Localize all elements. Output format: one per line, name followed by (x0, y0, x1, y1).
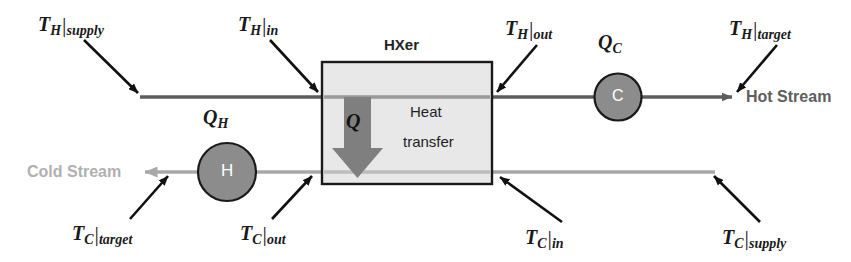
label-tc-in: TC|in (525, 225, 564, 252)
th-supply-qualifier: supply (67, 23, 104, 38)
tc-target-qualifier: target (99, 232, 132, 247)
tc-in-stream: C (537, 236, 546, 251)
pointer-tc-supply (714, 176, 760, 222)
tc-supply-symbol: T (722, 226, 734, 248)
pointer-th-out (497, 45, 537, 92)
th-out-stream: H (517, 27, 528, 42)
th-out-qualifier: out (534, 27, 553, 42)
tc-in-qualifier: in (552, 236, 564, 251)
pointer-tc-in (500, 177, 562, 222)
cooler-letter-label: C (612, 87, 624, 105)
label-th-target: TH|target (729, 16, 791, 43)
label-th-out: TH|out (505, 16, 552, 43)
qc-symbol: Q (598, 31, 612, 53)
th-in-qualifier: in (267, 23, 279, 38)
heat-exchanger-diagram: HXer Heat transfer Q C H QH QC TH|supply… (0, 0, 851, 262)
tc-out-qualifier: out (267, 232, 286, 247)
pointer-th-in (270, 40, 318, 92)
th-supply-stream: H (50, 23, 61, 38)
th-supply-symbol: T (38, 13, 50, 35)
tc-supply-qualifier: supply (749, 236, 786, 251)
pointer-tc-target (130, 176, 168, 219)
label-tc-supply: TC|supply (722, 225, 786, 252)
th-out-symbol: T (505, 17, 517, 39)
label-tc-out: TC|out (240, 221, 286, 248)
pointer-th-target (737, 45, 777, 92)
pointer-th-supply (84, 40, 138, 93)
th-in-stream: H (250, 23, 261, 38)
th-target-qualifier: target (758, 27, 791, 42)
th-target-stream: H (741, 27, 752, 42)
tc-target-symbol: T (72, 222, 84, 244)
label-th-in: TH|in (238, 12, 278, 39)
pointer-tc-out (272, 176, 312, 219)
tc-supply-stream: C (734, 236, 743, 251)
cold-stream-label: Cold Stream (27, 163, 121, 181)
qh-subscript: H (217, 116, 228, 131)
heater-letter-label: H (221, 161, 233, 181)
tc-out-symbol: T (240, 222, 252, 244)
qc-duty-label: QC (598, 31, 622, 57)
qh-symbol: Q (203, 106, 217, 128)
tc-target-stream: C (84, 232, 93, 247)
heat-transfer-text-line1: Heat (410, 103, 442, 120)
qh-duty-label: QH (203, 106, 228, 132)
hxer-title-label: HXer (384, 36, 419, 53)
th-in-symbol: T (238, 13, 250, 35)
label-tc-target: TC|target (72, 221, 132, 248)
q-heat-duty-label: Q (346, 110, 360, 133)
hot-stream-label: Hot Stream (746, 88, 831, 106)
label-th-supply: TH|supply (38, 12, 104, 39)
qc-subscript: C (612, 41, 621, 56)
tc-in-symbol: T (525, 226, 537, 248)
tc-out-stream: C (252, 232, 261, 247)
heat-transfer-text-line2: transfer (403, 133, 454, 150)
th-target-symbol: T (729, 17, 741, 39)
